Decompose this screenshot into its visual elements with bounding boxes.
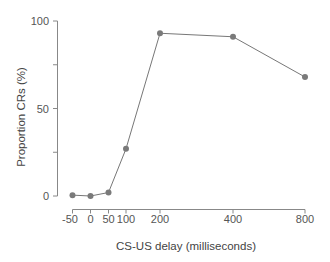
x-tick-label: 50 (102, 213, 114, 225)
x-tick-label: -50 (62, 213, 78, 225)
data-point-marker (106, 190, 112, 196)
x-tick-label: 800 (296, 213, 314, 225)
data-point-marker (230, 34, 236, 40)
data-point-marker (123, 146, 129, 152)
y-tick-label: 100 (31, 15, 49, 27)
x-axis: -50 0 50 100 200 400 800 CS-US delay (mi… (62, 210, 314, 253)
y-tick-label: 0 (43, 190, 49, 202)
y-axis-title: Proportion CRs (%) (15, 67, 27, 167)
x-tick-label: 0 (87, 213, 93, 225)
data-point-marker (157, 30, 163, 36)
data-point-marker (88, 193, 94, 199)
data-series (70, 30, 309, 199)
y-tick-label: 50 (37, 103, 49, 115)
x-tick-label: 400 (224, 213, 242, 225)
data-point-marker (302, 74, 308, 80)
x-axis-title: CS-US delay (milliseconds) (116, 240, 256, 252)
line-chart: 0 50 100 Proportion CRs (%) -50 0 50 100… (0, 0, 330, 262)
data-point-marker (70, 192, 76, 198)
x-tick-label: 200 (151, 213, 169, 225)
x-tick-label: 100 (117, 213, 135, 225)
y-axis: 0 50 100 Proportion CRs (%) (15, 15, 58, 202)
series-line (73, 33, 306, 196)
